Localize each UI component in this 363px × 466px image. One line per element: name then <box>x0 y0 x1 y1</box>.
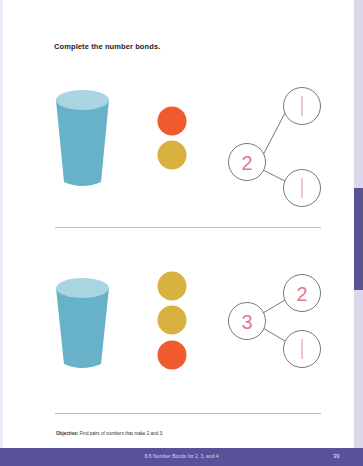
counter-red <box>158 341 187 370</box>
footer-lesson-title: 8-5 Number Bonds for 2, 3, and 4 <box>0 453 363 459</box>
bond-part-top-value: 2 <box>296 283 307 305</box>
problem-2: 2 3 <box>56 272 321 370</box>
counter-red <box>158 107 187 136</box>
objective-label: Objective: <box>56 431 78 436</box>
counter-yellow <box>158 306 187 335</box>
section-divider <box>55 413 321 414</box>
section-divider <box>55 227 321 228</box>
cup-icon <box>56 278 109 368</box>
page-number: 39 <box>333 453 340 459</box>
counter-yellow <box>158 141 187 170</box>
counter-yellow <box>158 272 187 301</box>
objective-text: Objective: Find pairs of numbers that ma… <box>56 431 163 436</box>
bond-whole-value: 2 <box>241 152 252 174</box>
page-footer: 8-5 Number Bonds for 2, 3, and 4 39 <box>0 448 363 466</box>
problem-1: 2 <box>56 88 321 207</box>
objective-body: Find pairs of numbers that make 2 and 3. <box>80 431 164 436</box>
number-bond-1 <box>229 88 321 207</box>
exercise-art: 2 2 3 <box>0 0 363 448</box>
cup-icon <box>56 90 109 186</box>
bond-whole-value: 3 <box>241 311 252 333</box>
